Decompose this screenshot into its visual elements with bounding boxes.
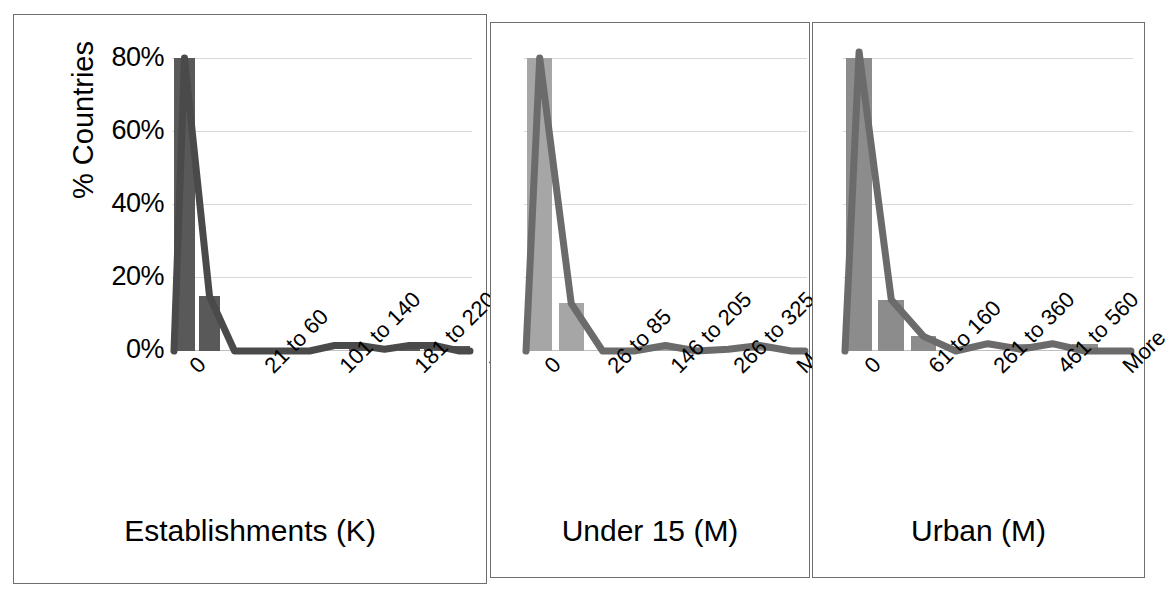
y-axis-ticks: 80% 60% 40% 20% 0%	[76, 58, 164, 351]
x-tick-label: 0	[860, 352, 885, 377]
plot-area-under15	[524, 58, 807, 351]
x-tick-label: 0	[185, 352, 210, 377]
y-tick-80: 80%	[111, 44, 164, 71]
line-series-under15	[524, 58, 807, 351]
y-tick-0: 0%	[126, 336, 164, 363]
x-axis-ticks-establishments: 021 to 60101 to 140181 to 220More	[172, 355, 472, 475]
line-series-establishments	[172, 58, 472, 351]
frequency-polyline	[524, 58, 807, 351]
y-tick-20: 20%	[111, 263, 164, 290]
x-axis-ticks-under15: 026 to 85146 to 205266 to 325More	[524, 355, 807, 475]
chart-panel-urban: 061 to 160261 to 360461 to 560More Urban…	[812, 22, 1145, 578]
chart-title-establishments: Establishments (K)	[14, 515, 486, 547]
frequency-polyline	[172, 58, 472, 351]
plot-area-establishments	[172, 58, 472, 351]
y-tick-40: 40%	[111, 190, 164, 217]
y-tick-60: 60%	[111, 117, 164, 144]
chart-title-under15: Under 15 (M)	[491, 515, 809, 547]
chart-panel-establishments: % Countries 80% 60% 40% 20% 0% 021 to 60…	[13, 14, 487, 584]
chart-title-urban: Urban (M)	[813, 515, 1144, 547]
x-axis-ticks-urban: 061 to 160261 to 360461 to 560More	[843, 355, 1133, 475]
chart-panel-under15: 026 to 85146 to 205266 to 325More Under …	[490, 22, 810, 578]
x-tick-label: 0	[540, 352, 565, 377]
